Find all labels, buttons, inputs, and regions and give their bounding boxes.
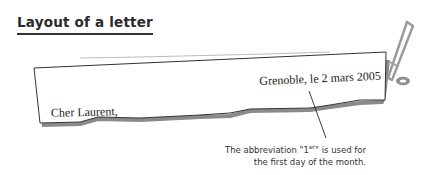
pen-icon bbox=[388, 22, 413, 80]
letter-greeting: Cher Laurent, bbox=[51, 104, 118, 121]
annotation-text: " is used for bbox=[315, 145, 366, 155]
annotation-text: The abbreviation "1 bbox=[225, 145, 309, 155]
annotation-line-2: the first day of the month. bbox=[186, 156, 366, 168]
paper-clip-icon bbox=[396, 77, 410, 85]
annotation-line-1: The abbreviation "1er" is used for bbox=[186, 141, 366, 156]
annotation-note: The abbreviation "1er" is used for the f… bbox=[186, 141, 366, 168]
